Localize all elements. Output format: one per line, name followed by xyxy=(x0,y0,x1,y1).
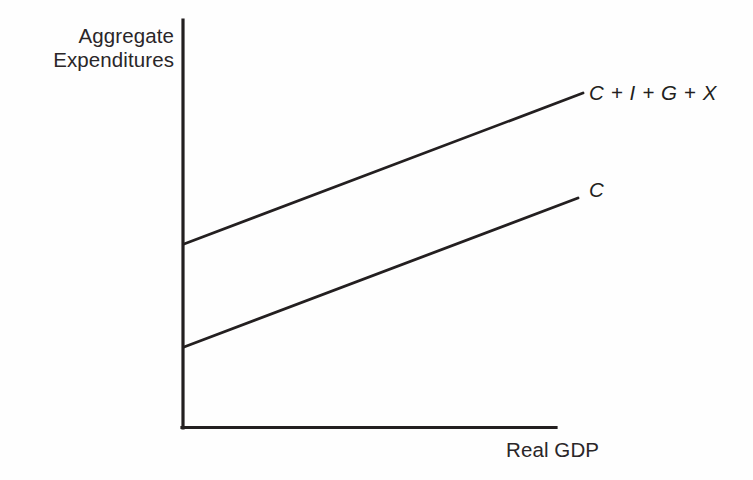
x-axis-label: Real GDP xyxy=(506,438,599,462)
y-axis-label-line-2: Expenditures xyxy=(0,48,174,72)
series-label-c: C xyxy=(589,178,604,202)
series-line-c-plus-i-plus-g-plus-x xyxy=(184,93,583,244)
y-axis-label: Aggregate Expenditures xyxy=(0,24,174,72)
series-label-c-plus-i-plus-g-plus-x: C + I + G + X xyxy=(589,81,717,105)
y-axis-label-line-1: Aggregate xyxy=(0,24,174,48)
chart-canvas: Aggregate Expenditures Real GDP C + I + … xyxy=(0,0,753,480)
